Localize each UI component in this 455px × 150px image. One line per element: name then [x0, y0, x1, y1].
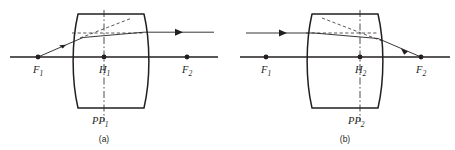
- principal-point-dot-b: [358, 55, 363, 60]
- front-focal-point-dot-b: [264, 55, 269, 60]
- principal-point-dot-a: [102, 55, 107, 60]
- panel-caption-b: (b): [340, 134, 351, 144]
- back-focal-label-b: F2: [415, 64, 426, 78]
- ray-diagram-canvas: F1 H1 F2 PP1 (a): [0, 0, 455, 150]
- incoming-ray-arrowhead-b: [279, 30, 287, 37]
- front-focal-label-a: F1: [32, 64, 43, 78]
- lens-outline-a: [73, 14, 149, 108]
- construction-line-diagonal-a: [80, 18, 132, 38]
- principal-plane-label-b: PP2: [347, 115, 365, 129]
- front-focal-label-b: F1: [260, 64, 271, 78]
- principal-plane-label-a: PP1: [91, 115, 109, 129]
- panel-a: F1 H1 F2 PP1 (a): [10, 10, 218, 144]
- back-focal-point-dot-b: [419, 55, 424, 60]
- optics-figure: F1 H1 F2 PP1 (a): [0, 0, 455, 150]
- outgoing-ray-arrowhead-b: [401, 48, 408, 55]
- back-focal-label-a: F2: [181, 64, 192, 78]
- front-focal-point-dot-a: [36, 55, 41, 60]
- principal-point-label-a: H1: [98, 64, 110, 78]
- principal-point-label-b: H2: [354, 64, 367, 78]
- internal-ray-b: [314, 33, 378, 39]
- lens-outline-b: [307, 14, 383, 108]
- construction-line-diagonal-b: [322, 18, 382, 41]
- panel-caption-a: (a): [99, 134, 110, 144]
- back-focal-point-dot-a: [185, 55, 190, 60]
- panel-b: F1 H2 F2 PP2 (b): [240, 10, 450, 144]
- incoming-ray-arrowhead-a: [59, 45, 66, 49]
- outgoing-ray-b: [378, 39, 421, 58]
- outgoing-ray-arrowhead-a: [175, 29, 183, 36]
- incoming-ray-a: [38, 38, 83, 58]
